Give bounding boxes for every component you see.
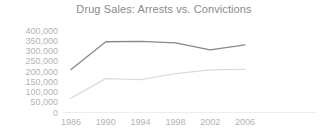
y-axis-tick-labels: 400,000350,000300,000250,000200,000150,0… (25, 26, 58, 118)
data-series-group (71, 41, 245, 98)
x-axis-tick-label: 1986 (61, 117, 81, 127)
y-axis-tick-label: 250,000 (25, 56, 58, 66)
series-line-arrests (71, 41, 245, 69)
y-axis-tick-label: 0 (53, 108, 58, 118)
y-axis-tick-label: 150,000 (25, 77, 58, 87)
x-axis-tick-label: 2006 (235, 117, 255, 127)
y-axis-tick-label: 350,000 (25, 36, 58, 46)
x-axis-tick-labels: 198619901994199820022006 (61, 117, 255, 127)
y-axis-tick-label: 100,000 (25, 87, 58, 97)
x-axis-tick-label: 1994 (131, 117, 151, 127)
x-axis-tick-label: 1998 (165, 117, 185, 127)
x-axis-tick-label: 2002 (200, 117, 220, 127)
series-line-convictions (71, 69, 245, 98)
chart-plot-area: 400,000350,000300,000250,000200,000150,0… (0, 0, 328, 135)
y-axis-tick-label: 300,000 (25, 46, 58, 56)
y-axis-tick-label: 200,000 (25, 67, 58, 77)
y-axis-tick-label: 400,000 (25, 26, 58, 36)
y-axis-tick-label: 50,000 (30, 97, 58, 107)
chart-container: Drug Sales: Arrests vs. Convictions 400,… (0, 0, 328, 135)
x-axis-tick-label: 1990 (96, 117, 116, 127)
